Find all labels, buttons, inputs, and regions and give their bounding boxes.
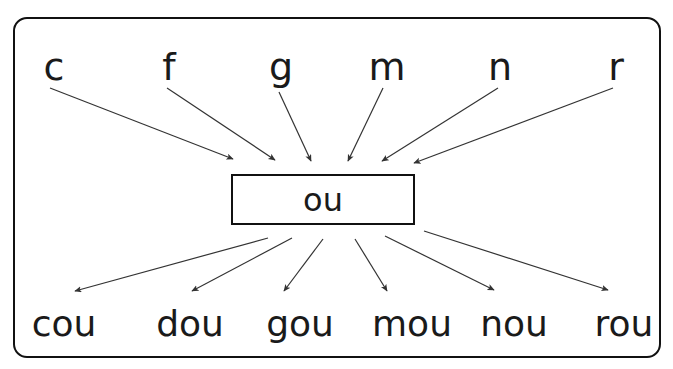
onset-letter-c: c: [44, 48, 65, 86]
onset-letter-g: g: [269, 48, 293, 86]
onset-letter-r: r: [608, 48, 624, 86]
onset-letter-m: m: [368, 48, 405, 86]
word-label-rou: rou: [595, 306, 654, 342]
diagram-canvas: cfgmnr ou coudougoumounourou: [0, 0, 673, 369]
word-label-nou: nou: [480, 306, 548, 342]
word-label-dou: dou: [156, 306, 224, 342]
rime-label: ou: [303, 184, 343, 216]
word-label-mou: mou: [372, 306, 452, 342]
word-label-cou: cou: [32, 306, 97, 342]
onset-letter-f: f: [162, 48, 175, 86]
onset-letter-n: n: [488, 48, 512, 86]
rime-box: ou: [231, 174, 415, 225]
word-label-gou: gou: [266, 306, 334, 342]
